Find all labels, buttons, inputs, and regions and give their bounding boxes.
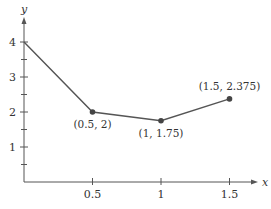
x-tick-label: 1 [158, 188, 165, 201]
x-axis-title: x [262, 176, 269, 189]
data-point-marker [90, 109, 96, 115]
data-point-marker [227, 96, 233, 102]
point-label: (1, 1.75) [139, 127, 184, 139]
y-axis-arrow-icon [22, 17, 27, 24]
y-tick-label: 4 [9, 36, 16, 49]
point-label: (0.5, 2) [73, 118, 111, 130]
point-labels: (0.5, 2)(1, 1.75)(1.5, 2.375) [73, 80, 260, 139]
y-tick-label: 3 [9, 71, 16, 84]
ticks: 0.511.51234 [9, 36, 238, 201]
axes: xy [20, 3, 269, 189]
x-tick-label: 1.5 [221, 188, 239, 201]
y-tick-label: 2 [9, 106, 16, 119]
x-axis-arrow-icon [251, 180, 258, 185]
data-point-marker [158, 118, 164, 124]
x-tick-label: 0.5 [84, 188, 102, 201]
point-label: (1.5, 2.375) [199, 80, 261, 92]
line-chart: xy 0.511.51234 (0.5, 2)(1, 1.75)(1.5, 2.… [0, 0, 271, 209]
y-axis-title: y [20, 3, 28, 16]
y-tick-label: 1 [9, 141, 16, 154]
